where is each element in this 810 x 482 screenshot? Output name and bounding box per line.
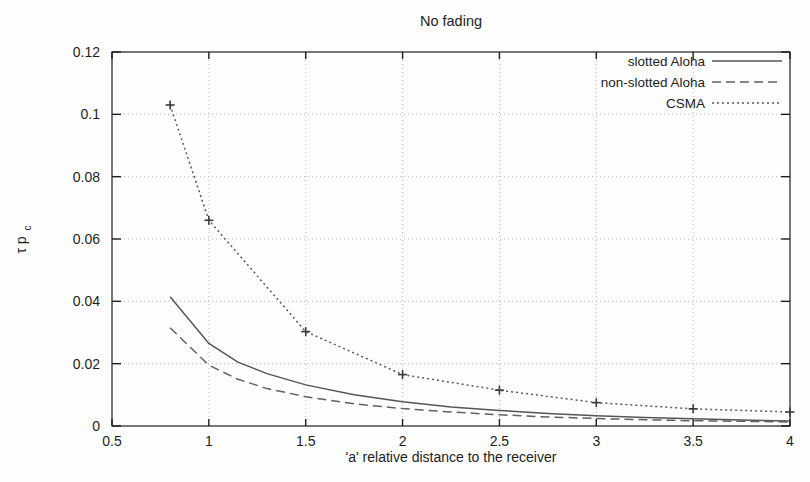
x-tick-label: 2 [399, 433, 407, 449]
y-tick-label: 0.12 [73, 44, 100, 60]
y-tick-label: 0.02 [73, 356, 100, 372]
x-tick-label: 0.5 [102, 433, 122, 449]
chart-title: No fading [420, 13, 482, 29]
y-axis-title-subscript: c [22, 226, 33, 231]
y-tick-label: 0.1 [81, 106, 101, 122]
y-axis-title: τ p [13, 236, 29, 253]
x-axis-title: 'a' relative distance to the receiver [346, 449, 557, 465]
y-axis-title-group: τ p c [13, 226, 33, 254]
y-tick-label: 0.04 [73, 293, 100, 309]
x-tick-label: 1 [205, 433, 213, 449]
x-tick-labels: 0.511.522.533.54 [102, 433, 794, 449]
legend-label: non-slotted Aloha [601, 75, 706, 90]
y-tick-label: 0 [92, 418, 100, 434]
x-tick-label: 3 [592, 433, 600, 449]
x-tick-label: 4 [786, 433, 794, 449]
y-tick-label: 0.08 [73, 169, 100, 185]
x-tick-label: 3.5 [683, 433, 703, 449]
chart-figure: 0.511.522.533.54 00.020.040.060.080.10.1… [0, 0, 810, 482]
x-tick-label: 1.5 [296, 433, 316, 449]
y-tick-label: 0.06 [73, 231, 100, 247]
legend-label: slotted Aloha [628, 54, 706, 69]
x-tick-label: 2.5 [490, 433, 510, 449]
y-tick-labels: 00.020.040.060.080.10.12 [73, 44, 100, 434]
legend-label: CSMA [666, 96, 705, 111]
chart-canvas: 0.511.522.533.54 00.020.040.060.080.10.1… [0, 0, 810, 482]
